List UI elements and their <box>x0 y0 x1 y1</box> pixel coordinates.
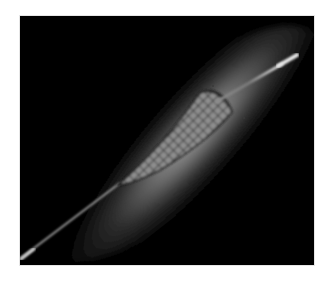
photo-frame <box>20 16 314 265</box>
device-photo <box>20 16 314 265</box>
speck <box>243 117 245 119</box>
speck <box>212 85 214 87</box>
